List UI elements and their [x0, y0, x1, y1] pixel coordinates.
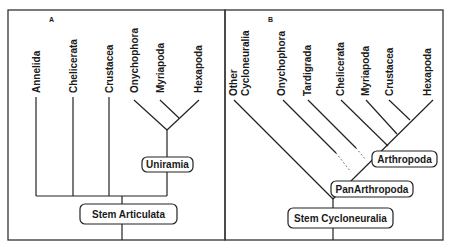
taxon-label-hexapoda: Hexapoda: [422, 48, 433, 96]
branch-hexapoda: [167, 100, 199, 130]
node-stem-articulata: Stem Articulata: [80, 204, 177, 224]
taxon-label-chelicerata: Chelicerata: [335, 42, 346, 96]
taxon-label-hexapoda: Hexapoda: [193, 45, 204, 93]
node-label-arthropoda: Arthropoda: [377, 154, 432, 165]
taxon-label-chelicerata: Chelicerata: [68, 39, 79, 93]
taxon-label-myriapoda: Myriapoda: [360, 46, 371, 96]
branch-chelicerata: [341, 100, 388, 146]
panel-a-letter: A: [49, 16, 54, 23]
panel-b: B Other Cycloneuralia Onychophora Tardig…: [228, 16, 437, 240]
node-label-stem-articulata: Stem Articulata: [92, 209, 165, 220]
taxon-label-tardigrada: Tardigrada: [302, 45, 313, 96]
branch-hexapoda-arthropoda-spine: [352, 100, 433, 180]
node-label-panarthropoda: PanArthropoda: [336, 184, 409, 195]
phylogeny-figure: A Annelida Chelicerata Crustacea Onychop…: [0, 0, 451, 249]
node-label-stem-cycloneuralia: Stem Cycloneuralia: [294, 213, 387, 224]
node-arthropoda: Arthropoda: [372, 151, 437, 167]
taxon-label-crustacea: Crustacea: [384, 47, 395, 96]
taxon-label-other: Other: [228, 69, 239, 96]
node-panarthropoda: PanArthropoda: [331, 181, 413, 197]
branch-crustacea: [389, 100, 410, 120]
branch-onychophora: [134, 100, 167, 130]
node-uniramia: Uniramia: [142, 157, 193, 172]
taxon-label-crustacea: Crustacea: [104, 44, 115, 93]
panel-b-frame: [225, 10, 443, 240]
taxon-label-onychophora: Onychophora: [129, 28, 140, 93]
taxon-label-annelida: Annelida: [31, 50, 42, 93]
branch-myriapoda: [160, 100, 179, 118]
branch-other-cycloneuralia: [234, 100, 333, 199]
taxon-label-cycloneuralia: Cycloneuralia: [240, 30, 251, 96]
taxon-label-myriapoda: Myriapoda: [155, 43, 166, 93]
branch-onychophora-dotted: [336, 153, 351, 172]
taxon-label-onychophora: Onychophora: [276, 31, 287, 96]
panel-a: A Annelida Chelicerata Crustacea Onychop…: [31, 16, 204, 240]
node-label-uniramia: Uniramia: [146, 159, 189, 170]
branch-tardigrada-dotted: [356, 148, 366, 160]
panel-b-letter: B: [268, 16, 273, 23]
node-stem-cycloneuralia: Stem Cycloneuralia: [288, 208, 393, 228]
branch-onychophora: [283, 100, 336, 153]
